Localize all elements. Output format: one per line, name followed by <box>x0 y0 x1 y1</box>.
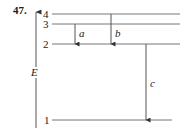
level-3-label: 3 <box>43 19 49 30</box>
transition-a-label: a <box>79 28 85 39</box>
energy-axis-label: E <box>31 67 38 78</box>
energy-level-diagram <box>0 0 186 132</box>
level-1-label: 1 <box>44 115 50 126</box>
problem-number: 47. <box>13 5 27 16</box>
transition-c-label: c <box>150 78 155 89</box>
level-2-label: 2 <box>43 39 49 50</box>
transition-b-label: b <box>115 28 121 39</box>
